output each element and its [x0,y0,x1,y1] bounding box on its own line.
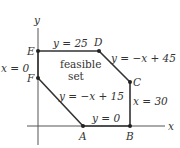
constraint-top-label: y = 25 [52,37,88,49]
constraint-left-label: x = 0 [1,62,29,74]
vertex-E-point [36,49,40,53]
constraint-upper-right-label: y = −x + 45 [110,52,176,64]
constraint-right-label: x = 30 [133,95,168,107]
vertex-E-label: E [26,45,35,57]
x-axis-label: x [168,120,174,132]
vertex-D-point [97,49,101,53]
vertex-C-label: C [133,76,141,88]
vertex-A-label: A [78,130,87,142]
vertex-C-point [128,80,132,84]
vertex-D-label: D [93,36,103,48]
vertex-B-point [128,124,132,128]
vertex-B-label: B [125,130,134,142]
region-label-feasible: feasible [60,58,101,70]
constraint-lower-left-label: y = −x + 15 [58,90,124,102]
constraint-bottom-label: y = 0 [91,112,120,124]
vertex-A-point [81,124,85,128]
y-axis-label: y [33,14,41,26]
region-label-set: set [68,70,85,82]
feasible-region-diagram: x y A B C D E F feasible set y = 25 y = … [0,0,180,148]
vertex-F-point [36,76,40,80]
